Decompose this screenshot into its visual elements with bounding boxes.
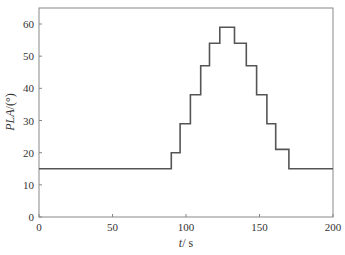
x-axis-label: t/ s bbox=[179, 236, 194, 250]
pla-series-line bbox=[39, 27, 333, 169]
y-tick-label: 10 bbox=[23, 179, 35, 191]
y-tick-label: 40 bbox=[23, 82, 35, 94]
y-tick-label: 0 bbox=[29, 211, 35, 223]
y-tick-label: 60 bbox=[23, 18, 35, 30]
plot-frame bbox=[39, 8, 333, 217]
y-tick-label: 50 bbox=[23, 50, 35, 62]
x-tick-label: 0 bbox=[36, 221, 42, 233]
y-tick-label: 30 bbox=[23, 115, 35, 127]
x-tick-label: 200 bbox=[325, 221, 342, 233]
x-tick-label: 100 bbox=[178, 221, 195, 233]
x-tick-label: 50 bbox=[107, 221, 119, 233]
pla-step-chart: 0102030405060 050100150200 t/ s PLA/(°) bbox=[0, 0, 345, 255]
y-tick-label: 20 bbox=[23, 147, 35, 159]
y-axis-label: PLA/(°) bbox=[3, 93, 17, 131]
x-tick-label: 150 bbox=[251, 221, 268, 233]
